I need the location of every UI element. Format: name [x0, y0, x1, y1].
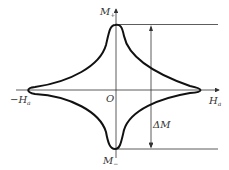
delta-m-arrowhead-top: [149, 25, 153, 31]
magnetization-diagram: M+ M− −Ha Ha O ΔM: [0, 0, 229, 170]
magnetization-curve: [28, 25, 200, 149]
origin-label: O: [106, 93, 114, 104]
negative-ha-label: −Ha: [10, 94, 31, 106]
ha-label: Ha: [208, 95, 222, 107]
delta-m-label: ΔM: [152, 119, 171, 130]
delta-m-arrowhead-bottom: [149, 143, 153, 149]
m-plus-label: M+: [99, 6, 115, 18]
